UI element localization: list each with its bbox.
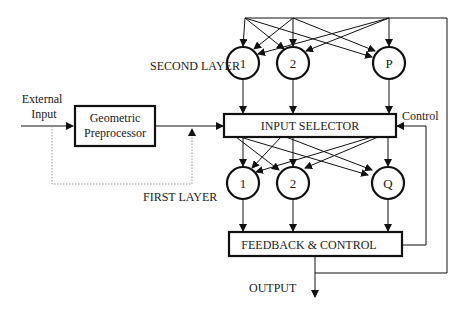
- external-input-label-2: Input: [31, 107, 57, 121]
- external-input-label: External: [22, 92, 63, 106]
- svg-text:Geometric: Geometric: [90, 111, 141, 125]
- svg-text:P: P: [385, 56, 392, 71]
- first-layer-node-q: Q: [372, 167, 404, 199]
- second-layer-node-p: P: [373, 47, 405, 79]
- neural-architecture-diagram: 1 2 P SECOND LAYER External Input Geomet…: [0, 0, 466, 313]
- svg-text:FEEDBACK & CONTROL: FEEDBACK & CONTROL: [241, 238, 376, 252]
- first-to-feedback-arrows: [243, 199, 388, 231]
- svg-text:1: 1: [240, 176, 247, 191]
- first-layer-node-1: 1: [227, 167, 259, 199]
- selector-to-first-arrows: [236, 137, 388, 175]
- second-layer-label: SECOND LAYER: [150, 59, 240, 73]
- svg-text:Preprocessor: Preprocessor: [84, 126, 146, 140]
- first-layer-node-2: 2: [277, 167, 309, 199]
- svg-text:1: 1: [240, 56, 247, 71]
- bypass-arrowhead: [188, 128, 196, 136]
- control-label: Control: [402, 109, 439, 123]
- feedback-control-block: FEEDBACK & CONTROL: [229, 232, 402, 256]
- first-layer-label: FIRST LAYER: [143, 190, 217, 204]
- second-layer-node-2: 2: [277, 47, 309, 79]
- second-to-selector-arrows: [243, 79, 389, 113]
- svg-text:Q: Q: [383, 176, 393, 191]
- svg-text:2: 2: [290, 176, 297, 191]
- input-selector-block: INPUT SELECTOR: [224, 114, 396, 137]
- svg-text:2: 2: [290, 56, 297, 71]
- output-label: OUTPUT: [249, 281, 297, 295]
- geometric-preprocessor-block: Geometric Preprocessor: [75, 106, 155, 146]
- svg-text:INPUT SELECTOR: INPUT SELECTOR: [261, 119, 360, 133]
